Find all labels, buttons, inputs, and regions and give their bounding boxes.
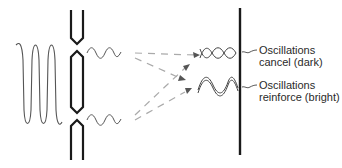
barrier	[71, 10, 83, 160]
diffracted-wave-bottom	[87, 115, 121, 126]
label-cancel-line1: Oscillations	[259, 44, 323, 56]
label-reinforce: Oscillations reinforce (bright)	[259, 79, 340, 103]
arrowheads	[178, 52, 200, 94]
diffracted-wave-top	[87, 48, 121, 59]
cancel-waves	[200, 48, 236, 59]
path-lines	[135, 53, 195, 120]
leader-reinforce	[242, 85, 257, 88]
label-reinforce-line1: Oscillations	[259, 79, 340, 91]
reinforce-waves	[198, 77, 238, 96]
label-cancel-line2: cancel (dark)	[259, 56, 323, 68]
incident-wave	[16, 44, 62, 125]
label-cancel: Oscillations cancel (dark)	[259, 44, 323, 68]
leader-cancel	[242, 50, 257, 53]
label-reinforce-line2: reinforce (bright)	[259, 91, 340, 103]
